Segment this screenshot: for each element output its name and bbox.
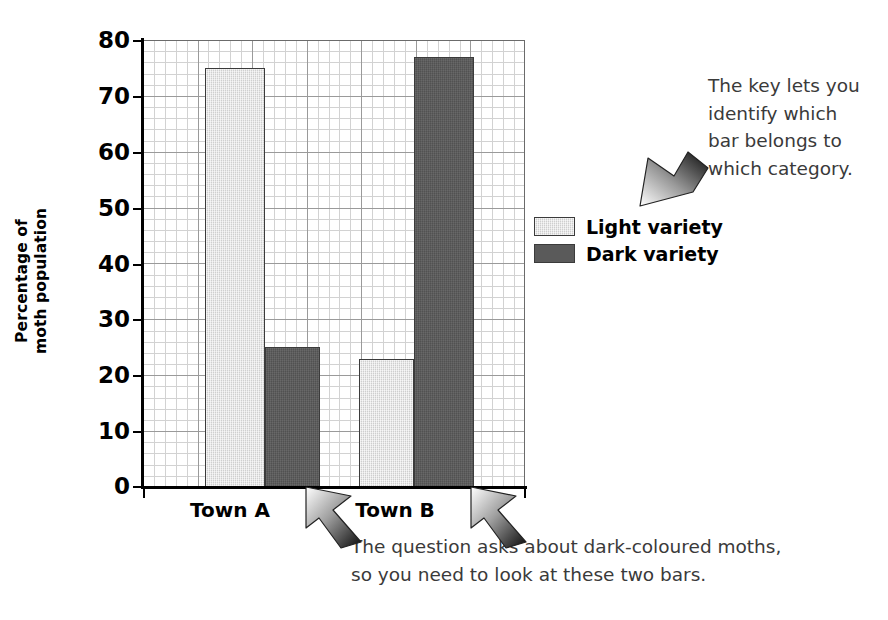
y-tick-label-20: 20 [88,364,130,387]
legend-label-light-variety: Light variety [586,216,723,238]
legend: Light variety Dark variety [534,213,723,267]
y-tick-0 [133,486,143,488]
y-tick-label-10: 10 [88,420,130,443]
bar-town-a-light [205,68,265,487]
y-tick-20 [133,375,143,377]
arrow-pointer-town-a-icon [303,484,365,550]
y-tick-40 [133,264,143,266]
y-axis-title-line-2: moth population [32,208,50,354]
arrow-pointer-key-icon [638,150,710,212]
legend-swatch-light-icon [534,217,575,236]
y-tick-30 [133,319,143,321]
y-tick-60 [133,152,143,154]
x-tick-left [143,487,145,498]
y-axis-title-line-1: Percentage of [13,219,31,343]
bar-town-a-dark [265,347,320,487]
y-tick-labels: 80 70 60 50 40 30 20 10 0 [82,0,130,620]
arrow-pointer-town-b-icon [468,484,530,550]
legend-label-dark-variety: Dark variety [586,243,719,265]
legend-item-light-variety: Light variety [534,213,723,240]
bar-chart-figure: 80 70 60 50 40 30 20 10 0 Percentage of … [0,0,888,620]
annotation-key-text: The key lets you identify which bar belo… [708,72,883,182]
y-tick-70 [133,96,143,98]
y-tick-label-70: 70 [88,85,130,108]
y-axis-title: Percentage of moth population [13,161,51,401]
y-tick-label-80: 80 [88,29,130,52]
legend-item-dark-variety: Dark variety [534,240,723,267]
bar-town-b-dark [414,57,474,487]
plot-right-border [524,40,525,488]
annotation-bars-text: The question asks about dark-coloured mo… [351,533,871,588]
bar-town-b-light [359,359,414,488]
y-tick-label-50: 50 [88,197,130,220]
legend-swatch-dark-icon [534,244,575,263]
y-tick-10 [133,431,143,433]
y-tick-label-30: 30 [88,308,130,331]
y-tick-50 [133,208,143,210]
y-tick-label-0: 0 [88,475,130,498]
y-tick-80 [133,40,143,42]
y-tick-label-60: 60 [88,141,130,164]
x-category-label-town-a: Town A [172,498,288,522]
plot-top-border [143,40,525,41]
plot-area [143,40,525,487]
y-tick-label-40: 40 [88,253,130,276]
